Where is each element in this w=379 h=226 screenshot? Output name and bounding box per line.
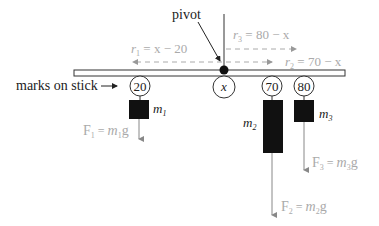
mass-m1 — [129, 100, 149, 119]
r2-annotation: r2 = 70 − x — [226, 54, 342, 71]
r1-annotation: r1 = x − 20 — [131, 41, 222, 62]
F2-label: F2 = m2g — [281, 199, 327, 216]
pivot-point — [220, 66, 229, 75]
torque-diagram: pivot r1 = x − 20 r3 = 80 − x r2 = 70 − … — [0, 0, 379, 226]
marks-on-stick-label: marks on stick — [16, 78, 98, 93]
svg-text:70: 70 — [266, 79, 279, 94]
mass-m2 — [263, 100, 283, 153]
mark-80: 80 — [294, 76, 314, 96]
mark-20: 20 — [130, 76, 150, 96]
mass-m3 — [294, 100, 314, 122]
pivot-arrow — [198, 22, 220, 61]
mark-70: 70 — [262, 76, 282, 96]
meter-stick — [74, 70, 345, 76]
svg-text:x: x — [220, 79, 227, 94]
svg-text:r2 = 70 − x: r2 = 70 − x — [285, 54, 342, 71]
m3-label: m3 — [319, 106, 332, 123]
diagram-canvas: pivot r1 = x − 20 r3 = 80 − x r2 = 70 − … — [0, 0, 379, 226]
svg-text:80: 80 — [298, 79, 311, 94]
svg-text:r1 = x − 20: r1 = x − 20 — [131, 41, 187, 58]
m2-label: m2 — [243, 115, 256, 132]
svg-text:r3 = 80 − x: r3 = 80 − x — [233, 27, 290, 44]
F3-label: F3 = m3g — [312, 155, 358, 172]
m1-label: m1 — [153, 101, 166, 118]
r3-annotation: r3 = 80 − x — [226, 27, 296, 49]
svg-text:20: 20 — [134, 79, 147, 94]
mark-x: x — [213, 76, 235, 98]
pivot-label: pivot — [172, 7, 201, 22]
F1-label: F1 = m1g — [83, 123, 129, 140]
